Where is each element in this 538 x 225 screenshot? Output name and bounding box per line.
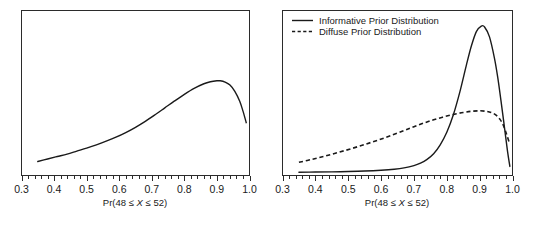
x-axis-tick-labels: 0.30.40.50.60.70.80.91.0 <box>275 183 520 195</box>
x-tick-label: 0.3 <box>14 183 29 195</box>
x-axis-label-left: Pr(48 ≤ X ≤ 52) <box>103 197 167 208</box>
x-axis-ticks <box>23 176 251 181</box>
x-tick-label: 0.8 <box>439 183 454 195</box>
x-tick-label: 0.9 <box>210 183 225 195</box>
series-curve-informative-prior <box>299 26 510 173</box>
x-tick-label: 1.0 <box>505 183 520 195</box>
x-tick-label: 0.8 <box>177 183 192 195</box>
chart-panel-right: 0.30.40.50.60.70.80.91.0 Informative Pri… <box>269 0 538 225</box>
x-tick-label: 0.5 <box>341 183 356 195</box>
x-tick-label: 0.3 <box>275 183 290 195</box>
plot-frame <box>22 11 250 176</box>
x-tick-label: 0.4 <box>308 183 323 195</box>
panel-left-svg: 0.30.40.50.60.70.80.91.0 Pr(48 ≤ X ≤ 52) <box>0 0 269 225</box>
series-curve-posterior <box>38 81 246 162</box>
series-curve-diffuse-prior <box>299 111 509 162</box>
legend-label-diffuse-prior: Diffuse Prior Distribution <box>319 26 421 37</box>
x-tick-label: 0.7 <box>144 183 159 195</box>
chart-panel-left: 0.30.40.50.60.70.80.91.0 Pr(48 ≤ X ≤ 52) <box>0 0 269 225</box>
x-tick-label: 0.6 <box>112 183 127 195</box>
legend-label-informative-prior: Informative Prior Distribution <box>319 15 439 26</box>
panel-right-svg: 0.30.40.50.60.70.80.91.0 Informative Pri… <box>269 0 538 225</box>
x-axis-ticks <box>284 176 514 181</box>
figure-root: 0.30.40.50.60.70.80.91.0 Pr(48 ≤ X ≤ 52)… <box>0 0 538 225</box>
x-tick-label: 0.9 <box>472 183 487 195</box>
x-tick-label: 0.5 <box>79 183 94 195</box>
x-tick-label: 0.6 <box>374 183 389 195</box>
legend: Informative Prior Distribution Diffuse P… <box>292 15 439 37</box>
x-tick-label: 0.7 <box>407 183 422 195</box>
x-tick-label: 1.0 <box>242 183 257 195</box>
x-axis-tick-labels: 0.30.40.50.60.70.80.91.0 <box>14 183 257 195</box>
x-tick-label: 0.4 <box>47 183 62 195</box>
x-axis-label-right: Pr(48 ≤ X ≤ 52) <box>365 197 429 208</box>
